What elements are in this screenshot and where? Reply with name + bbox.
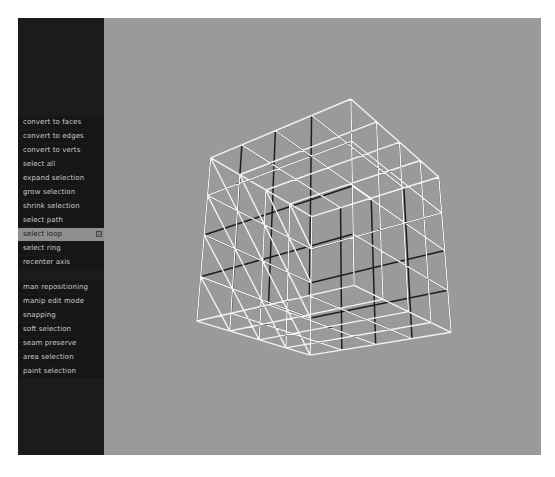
3d-viewport[interactable]: convert to facesconvert to edgesconvert … (18, 18, 541, 455)
menu-item-recenter-axis[interactable]: recenter axis (18, 256, 104, 269)
menu-item-select-loop[interactable]: select loop (18, 228, 104, 241)
menu-item-label: recenter axis (23, 258, 70, 266)
menu-item-label: manip edit mode (23, 297, 84, 305)
menu-item-label: convert to edges (23, 132, 84, 140)
menu-item-label: shrink selection (23, 202, 80, 210)
menu-item-label: man repositioning (23, 283, 88, 291)
menu-item-label: seam preserve (23, 339, 76, 347)
marking-menu-panel[interactable]: convert to facesconvert to edgesconvert … (18, 18, 104, 455)
menu-item-label: grow selection (23, 188, 75, 196)
menu-item-manip-edit-mode[interactable]: manip edit mode (18, 295, 104, 308)
menu-item-select-ring[interactable]: select ring (18, 242, 104, 255)
menu-item-convert-to-verts[interactable]: convert to verts (18, 144, 104, 157)
menu-item-convert-to-faces[interactable]: convert to faces (18, 116, 104, 129)
menu-item-label: area selection (23, 353, 74, 361)
menu-item-expand-selection[interactable]: expand selection (18, 172, 104, 185)
menu-item-label: soft selection (23, 325, 71, 333)
screenshot-root: convert to facesconvert to edgesconvert … (0, 0, 555, 477)
marking-menu-group-manipulation-commands: man repositioningmanip edit modesnapping… (18, 281, 104, 378)
marking-menu-separator (18, 270, 104, 281)
menu-item-shrink-selection[interactable]: shrink selection (18, 200, 104, 213)
submenu-option-box-icon[interactable] (96, 231, 102, 237)
menu-item-soft-selection[interactable]: soft selection (18, 323, 104, 336)
menu-item-label: paint selection (23, 367, 76, 375)
menu-item-select-all[interactable]: select all (18, 158, 104, 171)
menu-item-label: snapping (23, 311, 56, 319)
menu-item-select-path[interactable]: select path (18, 214, 104, 227)
menu-item-label: convert to faces (23, 118, 81, 126)
menu-item-label: convert to verts (23, 146, 80, 154)
marking-menu-group-selection-commands: convert to facesconvert to edgesconvert … (18, 116, 104, 269)
menu-item-label: select all (23, 160, 55, 168)
menu-item-area-selection[interactable]: area selection (18, 351, 104, 364)
menu-item-label: expand selection (23, 174, 84, 182)
menu-item-man-repositioning[interactable]: man repositioning (18, 281, 104, 294)
menu-item-label: select ring (23, 244, 61, 252)
menu-item-seam-preserve[interactable]: seam preserve (18, 337, 104, 350)
menu-item-label: select loop (23, 230, 62, 238)
menu-item-grow-selection[interactable]: grow selection (18, 186, 104, 199)
menu-item-label: select path (23, 216, 63, 224)
marking-menu-header-space (18, 18, 104, 116)
menu-item-convert-to-edges[interactable]: convert to edges (18, 130, 104, 143)
menu-item-snapping[interactable]: snapping (18, 309, 104, 322)
menu-item-paint-selection[interactable]: paint selection (18, 365, 104, 378)
